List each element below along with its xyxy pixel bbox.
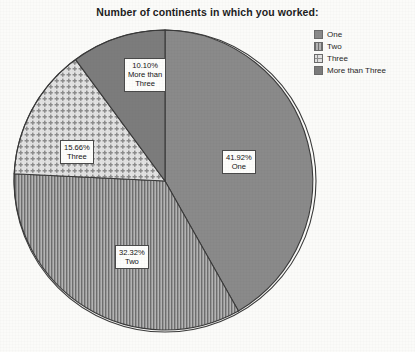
legend-swatch-one-icon xyxy=(314,30,323,39)
legend-swatch-two-icon xyxy=(314,42,323,51)
legend-label-one: One xyxy=(327,30,342,39)
pie-label-one: 41.92% One xyxy=(222,150,256,174)
legend-label-more-than-three: More than Three xyxy=(327,66,386,75)
legend-item-two[interactable]: Two xyxy=(314,41,415,53)
legend-label-three: Three xyxy=(327,54,348,63)
legend-swatch-more-than-three-icon xyxy=(314,66,323,75)
pie-label-more-than-three: 10.10% More than Three xyxy=(124,58,166,92)
legend-item-three[interactable]: Three xyxy=(314,53,415,65)
legend-item-more-than-three[interactable]: More than Three xyxy=(314,65,415,77)
legend-label-two: Two xyxy=(327,42,342,51)
chart-legend: One Two Three More than Three xyxy=(314,29,415,77)
legend-item-one[interactable]: One xyxy=(314,29,415,41)
pie-label-three: 15.66% Three xyxy=(60,140,94,164)
pie-label-two: 32.32% Two xyxy=(115,245,149,269)
legend-swatch-three-icon xyxy=(314,54,323,63)
chart-page: Number of continents in which you worked… xyxy=(0,0,415,352)
